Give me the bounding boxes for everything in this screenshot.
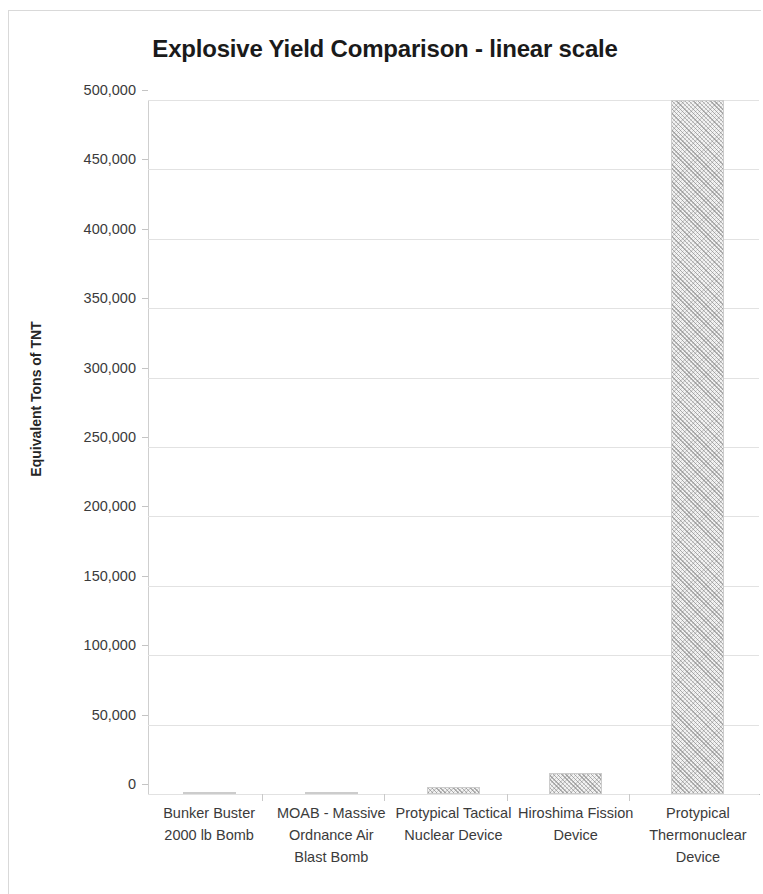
bar[interactable] (427, 787, 480, 794)
x-axis-tick-mark (629, 794, 630, 801)
y-axis-tick-label: 50,000 (16, 707, 136, 723)
x-axis-category-label: MOAB - Massive Ordnance Air Blast Bomb (270, 802, 392, 894)
y-axis-tick-label: 100,000 (16, 637, 136, 653)
x-axis-category-labels: Bunker Buster 2000 lb BombMOAB - Massive… (148, 802, 759, 894)
x-axis-category-label: Protypical Thermonuclear Device (637, 802, 759, 894)
y-axis-tick-label: 0 (16, 776, 136, 792)
gridline (148, 100, 759, 101)
plot-area (148, 100, 759, 794)
y-axis-tick-label: 450,000 (16, 151, 136, 167)
gridline (148, 655, 759, 656)
y-axis-tick-label: 350,000 (16, 290, 136, 306)
gridline (148, 308, 759, 309)
gridline (148, 169, 759, 170)
bar[interactable] (671, 100, 724, 794)
y-axis-tick-label: 400,000 (16, 221, 136, 237)
y-axis-tick-label: 500,000 (16, 82, 136, 98)
x-axis-category-label: Protypical Tactical Nuclear Device (392, 802, 514, 894)
x-axis-category-label: Bunker Buster 2000 lb Bomb (148, 802, 270, 894)
x-axis-tick-mark (384, 794, 385, 801)
y-axis-tick-labels: 500,000450,000400,000350,000300,000250,0… (9, 11, 136, 894)
x-axis-category-label: Hiroshima Fission Device (515, 802, 637, 894)
gridline (148, 794, 759, 795)
y-axis-tick-label: 300,000 (16, 360, 136, 376)
x-axis-tick-mark (262, 794, 263, 801)
gridline (148, 586, 759, 587)
y-axis-tick-label: 200,000 (16, 498, 136, 514)
y-axis-tick-label: 150,000 (16, 568, 136, 584)
x-axis-tick-mark (507, 794, 508, 801)
gridline (148, 239, 759, 240)
chart-frame: Explosive Yield Comparison - linear scal… (8, 10, 761, 894)
y-axis-tick-mark (142, 90, 148, 91)
gridline (148, 725, 759, 726)
gridline (148, 516, 759, 517)
gridline (148, 447, 759, 448)
bar[interactable] (305, 792, 358, 794)
bar[interactable] (549, 773, 602, 794)
y-axis-tick-label: 250,000 (16, 429, 136, 445)
bar[interactable] (183, 792, 236, 794)
gridline (148, 378, 759, 379)
